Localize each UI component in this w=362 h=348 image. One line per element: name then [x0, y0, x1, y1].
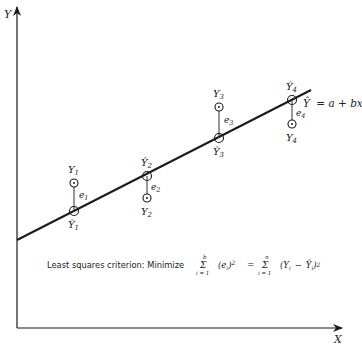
fitted-label: Ŷ2	[141, 157, 153, 170]
data-point-2: Ŷ2 Y2 e2	[141, 157, 160, 219]
observed-label: Y1	[68, 164, 79, 177]
fitted-label: Ŷ4	[286, 81, 297, 94]
observed-point-dot	[218, 106, 220, 108]
error-label: e1	[79, 190, 88, 202]
observed-point-dot	[73, 182, 75, 184]
sum2-lower: i = 1	[258, 270, 271, 276]
regression-line	[17, 90, 311, 240]
fitted-label: Ŷ3	[213, 146, 225, 159]
sum2-term: (Yi−Ŷi)2	[280, 259, 321, 271]
equals-sign: =	[247, 260, 254, 270]
fitted-label: Ŷ1	[68, 219, 79, 232]
y-axis-label: Y	[4, 8, 13, 21]
least-squares-criterion: Least squares criterion: Minimize b Σ i …	[47, 254, 321, 276]
observed-point-dot	[291, 123, 293, 125]
data-point-3: Y3 Ŷ3 e3	[213, 88, 233, 159]
observed-label: Y4	[286, 132, 297, 145]
data-point-4: Ŷ4 Y4 e4	[286, 81, 305, 145]
observed-label: Y2	[141, 206, 153, 219]
data-point-1: Y1 Ŷ1 e1	[68, 164, 88, 232]
observed-label: Y3	[213, 88, 225, 101]
error-label: e2	[151, 182, 160, 194]
criterion-prefix: Least squares criterion: Minimize	[47, 260, 184, 270]
sum1-lower: i = 1	[196, 270, 209, 276]
sum2-sigma: Σ	[261, 260, 269, 270]
sum1-term: (ei)2	[218, 259, 235, 271]
regression-equation: Ŷ = a + bx	[303, 96, 362, 109]
sum1-sigma: Σ	[199, 260, 207, 270]
error-label: e3	[224, 115, 233, 127]
x-axis-label: X	[333, 333, 343, 346]
observed-point-dot	[146, 197, 148, 199]
least-squares-diagram: Y X Ŷ = a + bx Y1 Ŷ1 e1 Ŷ2 Y2 e2 Y3 Ŷ3 e…	[0, 0, 362, 348]
error-label: e4	[296, 108, 305, 120]
